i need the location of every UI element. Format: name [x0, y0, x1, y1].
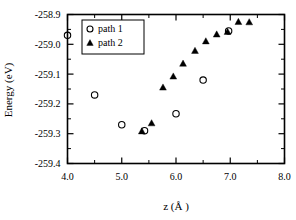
data-point-filled-triangle	[138, 128, 145, 134]
data-point-open-circle	[91, 92, 97, 98]
y-tick-label: -259.1	[35, 69, 61, 80]
data-point-filled-triangle	[180, 60, 187, 66]
data-point-filled-triangle	[170, 73, 177, 79]
scatter-plot: 4.05.06.07.08.0 -258.9-259.0-259.1-259.2…	[0, 0, 296, 220]
data-point-filled-triangle	[246, 19, 253, 25]
x-tick-label: 5.0	[116, 171, 129, 182]
y-axis-tick-labels: -258.9-259.0-259.1-259.2-259.3-259.4	[35, 9, 61, 169]
x-tick-label: 8.0	[278, 171, 291, 182]
data-point-filled-triangle	[213, 31, 220, 37]
data-point-filled-triangle	[192, 47, 199, 53]
data-point-open-circle	[119, 122, 125, 128]
chart-legend: path 1path 2	[82, 20, 144, 54]
y-tick-label: -259.3	[35, 128, 61, 139]
data-point-filled-triangle	[148, 120, 155, 126]
x-tick-label: 4.0	[61, 171, 74, 182]
chart-figure: 4.05.06.07.08.0 -258.9-259.0-259.1-259.2…	[0, 0, 296, 220]
y-tick-label: -258.9	[35, 9, 61, 20]
y-axis-title: Energy (eV)	[2, 62, 15, 117]
data-point-filled-triangle	[160, 84, 167, 90]
y-tick-label: -259.4	[35, 158, 61, 169]
data-point-open-circle	[200, 77, 206, 83]
data-point-filled-triangle	[235, 18, 242, 24]
x-axis-title: z (Å )	[163, 200, 189, 213]
y-tick-label: -259.2	[35, 98, 61, 109]
legend-label: path 1	[98, 23, 123, 34]
data-point-filled-triangle	[202, 38, 209, 44]
x-tick-label: 7.0	[224, 171, 237, 182]
x-tick-label: 6.0	[170, 171, 183, 182]
data-point-open-circle	[173, 111, 179, 117]
legend-label: path 2	[98, 37, 123, 48]
series-path-2	[138, 18, 252, 134]
x-axis-tick-labels: 4.05.06.07.08.0	[61, 171, 291, 182]
y-tick-label: -259.0	[35, 39, 61, 50]
